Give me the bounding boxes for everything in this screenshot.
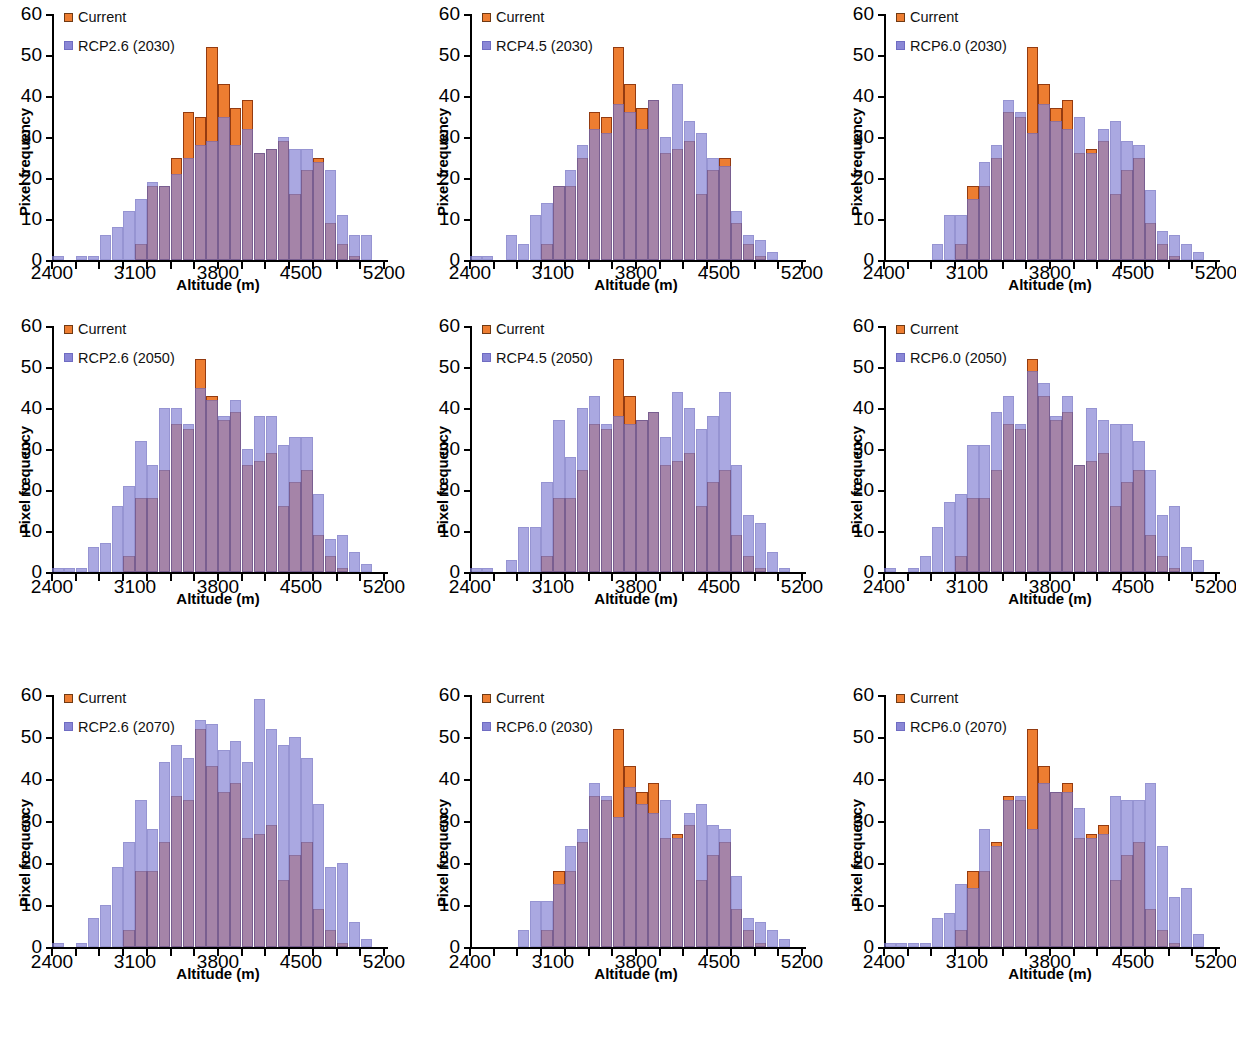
- rcp-swatch-icon: [64, 353, 73, 362]
- x-tick: [359, 949, 361, 956]
- bar-rcp: [955, 884, 966, 947]
- bar-rcp: [230, 741, 241, 947]
- x-tick-label: 2400: [31, 262, 73, 284]
- chart-panel-panel-7: Pixel frequencyAltitude (m)0102030405060…: [0, 677, 412, 1046]
- x-tick: [1168, 262, 1170, 269]
- bar-rcp: [636, 129, 647, 260]
- x-tick: [1096, 262, 1098, 269]
- bar-rcp: [755, 523, 766, 572]
- rcp-swatch-icon: [64, 41, 73, 50]
- x-axis-line: [884, 947, 1220, 949]
- bar-rcp: [1169, 235, 1180, 260]
- bar-rcp: [1062, 396, 1073, 572]
- bar-rcp: [112, 506, 123, 572]
- x-tick-label: 4500: [1112, 951, 1154, 973]
- y-tick-label: 30: [418, 810, 460, 832]
- x-tick-label: 4500: [280, 262, 322, 284]
- bar-rcp: [908, 943, 919, 947]
- x-tick: [336, 262, 338, 269]
- bar-rcp: [100, 235, 111, 260]
- bar-rcp: [76, 256, 87, 260]
- bar-rcp: [349, 235, 360, 260]
- y-tick-label: 40: [0, 85, 42, 107]
- x-tick: [930, 262, 932, 269]
- x-tick-label: 3100: [532, 951, 574, 973]
- bar-rcp: [1015, 424, 1026, 572]
- y-tick-label: 10: [0, 520, 42, 542]
- x-tick-label: 3100: [946, 262, 988, 284]
- legend-label: RCP6.0 (2070): [910, 720, 1007, 735]
- bar-rcp: [696, 429, 707, 573]
- bar-rcp: [589, 783, 600, 947]
- bar-rcp: [696, 804, 707, 947]
- chart-legend: CurrentRCP2.6 (2070): [64, 691, 175, 748]
- bar-rcp: [672, 84, 683, 260]
- legend-item: RCP4.5 (2050): [482, 351, 593, 366]
- x-tick: [75, 262, 77, 269]
- bar-rcp: [1110, 424, 1121, 572]
- y-tick-label: 40: [832, 768, 874, 790]
- chart-legend: CurrentRCP4.5 (2050): [482, 322, 593, 379]
- bar-rcp: [696, 133, 707, 260]
- bar-rcp: [349, 922, 360, 947]
- chart-legend: CurrentRCP4.5 (2030): [482, 10, 593, 67]
- bar-rcp: [553, 186, 564, 260]
- legend-item: Current: [64, 10, 175, 25]
- legend-item: Current: [482, 691, 593, 706]
- bar-rcp: [955, 215, 966, 260]
- bar-rcp: [123, 842, 134, 947]
- bar-rcp: [337, 535, 348, 572]
- x-tick: [359, 574, 361, 581]
- x-tick: [264, 574, 266, 581]
- bar-rcp: [684, 121, 695, 260]
- bar-rcp: [613, 104, 624, 260]
- bar-rcp: [183, 424, 194, 572]
- x-tick-label: 3800: [1029, 262, 1071, 284]
- y-tick-label: 60: [0, 315, 42, 337]
- bar-rcp: [565, 846, 576, 947]
- x-tick-label: 3100: [946, 951, 988, 973]
- legend-label: RCP6.0 (2030): [496, 720, 593, 735]
- bar-rcp: [506, 235, 517, 260]
- bar-rcp: [1110, 796, 1121, 947]
- x-tick: [682, 262, 684, 269]
- bar-rcp: [506, 560, 517, 572]
- bar-rcp: [206, 400, 217, 572]
- current-swatch-icon: [482, 325, 491, 334]
- current-swatch-icon: [482, 13, 491, 22]
- x-tick: [1025, 262, 1027, 269]
- legend-item: Current: [896, 691, 1007, 706]
- y-axis-title: Pixel frequency: [434, 108, 451, 216]
- bar-rcp: [719, 166, 730, 260]
- bar-rcp: [1098, 834, 1109, 947]
- bar-rcp: [171, 408, 182, 572]
- bar-rcp: [1027, 133, 1038, 260]
- x-tick-label: 3100: [532, 576, 574, 598]
- bar-rcp: [159, 408, 170, 572]
- x-tick-label: 5200: [781, 576, 823, 598]
- x-tick-label: 4500: [1112, 262, 1154, 284]
- x-tick-label: 5200: [363, 262, 405, 284]
- y-axis-title: Pixel frequency: [16, 108, 33, 216]
- x-tick-label: 2400: [449, 576, 491, 598]
- bar-rcp: [707, 825, 718, 947]
- bar-rcp: [301, 758, 312, 947]
- bar-rcp: [979, 829, 990, 947]
- x-tick-label: 5200: [1195, 576, 1236, 598]
- x-tick-label: 5200: [1195, 262, 1236, 284]
- bar-rcp: [518, 527, 529, 572]
- bar-rcp: [577, 829, 588, 947]
- bar-rcp: [908, 568, 919, 572]
- x-tick-label: 3100: [114, 576, 156, 598]
- rcp-swatch-icon: [896, 722, 905, 731]
- bar-rcp: [1181, 244, 1192, 260]
- y-tick-label: 50: [0, 726, 42, 748]
- x-tick: [930, 574, 932, 581]
- y-axis-title: Pixel frequency: [848, 108, 865, 216]
- x-tick: [241, 574, 243, 581]
- chart-panel-panel-5: Pixel frequencyAltitude (m)0102030405060…: [412, 312, 824, 677]
- legend-item: RCP6.0 (2070): [896, 720, 1007, 735]
- bar-rcp: [601, 133, 612, 260]
- bar-rcp: [1133, 800, 1144, 947]
- bar-rcp: [707, 416, 718, 572]
